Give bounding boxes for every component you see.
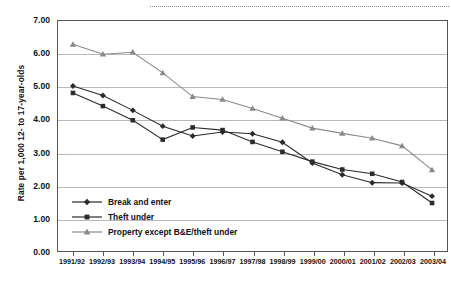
plot-area: Break and enterTheft underProperty excep… <box>57 20 448 252</box>
x-axis-tick <box>344 251 345 256</box>
square-marker <box>85 214 90 219</box>
x-axis-tick-label: 1996/97 <box>209 257 235 266</box>
x-axis-tick <box>73 251 74 256</box>
square-marker <box>131 118 136 123</box>
x-axis-tick-label: 1991/92 <box>59 257 85 266</box>
chart-legend: Break and enterTheft underProperty excep… <box>71 194 237 239</box>
diamond-marker <box>250 131 256 137</box>
x-axis-tick-label: 1999/00 <box>300 257 326 266</box>
x-axis-tick <box>434 251 435 256</box>
x-axis-tick-label: 1995/96 <box>179 257 205 266</box>
x-axis-tick <box>103 251 104 256</box>
legend-label: Break and enter <box>108 197 171 207</box>
triangle-marker <box>70 41 76 47</box>
x-axis-tick-label: 1993/94 <box>119 257 145 266</box>
x-axis-tick <box>314 251 315 256</box>
square-marker <box>310 159 315 164</box>
x-axis-tick-label: 1998/99 <box>270 257 296 266</box>
y-axis-tick-label: 7.00 <box>10 15 50 25</box>
square-marker <box>370 172 375 177</box>
y-axis-tick-label: 1.00 <box>10 214 50 224</box>
legend-item[interactable]: Property except B&E/theft under <box>71 224 237 239</box>
diamond-marker <box>339 172 345 178</box>
y-axis-tick-label: 6.00 <box>10 48 50 58</box>
line-chart-figure: Rate per 1,000 12- to 17-year-olds 7.006… <box>0 0 451 283</box>
legend-label: Theft under <box>108 212 154 222</box>
x-axis-tick <box>254 251 255 256</box>
y-axis-title: Rate per 1,000 12- to 17-year-olds <box>16 38 26 228</box>
square-marker <box>71 91 76 96</box>
triangle-marker <box>160 70 166 76</box>
y-axis-tick-label: 0.00 <box>10 247 50 257</box>
y-axis-tick-label: 3.00 <box>10 148 50 158</box>
diamond-marker <box>100 93 106 99</box>
y-axis-tick-label: 5.00 <box>10 81 50 91</box>
x-axis-tick <box>133 251 134 256</box>
diamond-marker <box>84 198 90 204</box>
legend-item[interactable]: Theft under <box>71 209 237 224</box>
diamond-marker <box>369 180 375 186</box>
diamond-marker <box>190 133 196 139</box>
diamond-marker <box>160 123 166 129</box>
x-axis-tick <box>404 251 405 256</box>
decorative-dotted-rule <box>150 6 449 7</box>
x-axis-tick-label: 2002/03 <box>390 257 416 266</box>
square-marker <box>250 140 255 145</box>
x-axis-tick <box>163 251 164 256</box>
legend-item[interactable]: Break and enter <box>71 194 237 209</box>
legend-swatch-triangle <box>71 226 103 238</box>
square-marker <box>400 180 405 185</box>
x-axis-tick <box>193 251 194 256</box>
legend-swatch-diamond <box>71 196 103 208</box>
square-marker <box>280 149 285 154</box>
y-axis-tick-label: 2.00 <box>10 181 50 191</box>
x-axis-tick-label: 1992/93 <box>89 257 115 266</box>
square-marker <box>190 125 195 130</box>
x-axis-tick <box>284 251 285 256</box>
x-axis-tick-label: 1997/98 <box>240 257 266 266</box>
x-axis-tick-label: 1994/95 <box>149 257 175 266</box>
diamond-marker <box>429 193 435 199</box>
legend-swatch-square <box>71 211 103 223</box>
legend-label: Property except B&E/theft under <box>108 227 237 237</box>
triangle-marker <box>130 49 136 55</box>
diamond-marker <box>130 107 136 113</box>
diamond-marker <box>70 83 76 89</box>
square-marker <box>101 104 106 109</box>
x-axis-tick-label: 2000/01 <box>330 257 356 266</box>
square-marker <box>430 201 435 206</box>
y-axis-tick-label: 4.00 <box>10 114 50 124</box>
square-marker <box>340 167 345 172</box>
x-axis-tick-label: 2003/04 <box>420 257 446 266</box>
x-axis-tick <box>223 251 224 256</box>
x-axis-tick <box>374 251 375 256</box>
square-marker <box>160 137 165 142</box>
square-marker <box>220 128 225 133</box>
x-axis-tick-label: 2001/02 <box>360 257 386 266</box>
